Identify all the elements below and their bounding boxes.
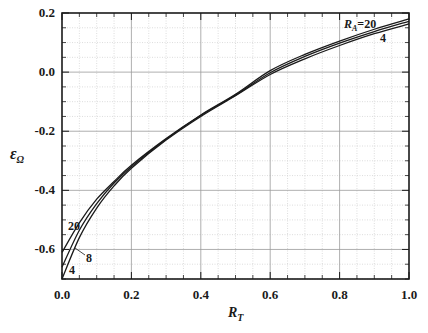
x-tick-label: 0.4 [193,287,210,302]
x-tick-label: 0.0 [54,287,70,302]
y-tick-label: -0.4 [34,182,55,197]
y-tick-label: -0.2 [34,123,55,138]
x-tick-label: 1.0 [401,287,417,302]
y-tick-labels: 0.20.0-0.2-0.4-0.6 [34,5,55,256]
y-tick-label: -0.6 [34,241,55,256]
y-axis-label: εΩ [10,145,25,165]
y-tick-label: 0.2 [39,5,55,20]
annotation-ra-20: RA=20 [343,17,376,33]
annotation-bottom-20: 20 [68,219,80,233]
x-tick-labels: 0.00.20.40.60.81.0 [54,287,417,302]
y-tick-label: 0.0 [39,64,55,79]
minor-grid [62,13,409,279]
x-tick-label: 0.2 [123,287,139,302]
chart: 0.00.20.40.60.81.0 0.20.0-0.2-0.4-0.6 RT… [0,0,428,333]
x-axis-label: RT [227,305,244,323]
x-tick-label: 0.8 [331,287,348,302]
annotation-bottom-8: 8 [86,251,92,265]
x-tick-label: 0.6 [262,287,279,302]
annotation-top-4: 4 [380,31,386,45]
annotation-bottom-4: 4 [69,263,75,277]
